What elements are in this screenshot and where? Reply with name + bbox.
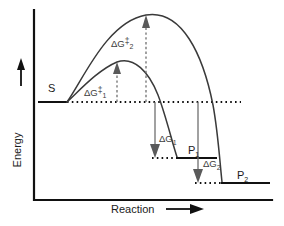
delta-g-1-label-sub: 1: [173, 139, 177, 146]
product-2-label-group: P2: [237, 169, 248, 183]
activation-2-label-text: ΔG: [111, 38, 125, 49]
delta-g-2-label: ΔG2: [203, 158, 221, 171]
right-arrow-icon: [190, 204, 204, 214]
delta-g-2-label-group: ΔG2: [203, 158, 221, 171]
delta-g-1-arrow-head-icon: [150, 144, 160, 158]
activation-1-label-sub: 1: [102, 92, 106, 99]
delta-g-1-label-text: ΔG: [159, 133, 173, 144]
delta-g-2-arrow-head-icon: [193, 169, 203, 183]
activation-2-label-sub: 2: [129, 43, 133, 50]
start-label: S: [48, 82, 55, 94]
product-2-label: P2: [237, 169, 248, 183]
product-1-label-text: P: [188, 144, 195, 156]
energy-diagram-svg: Energy Reaction: [0, 0, 284, 226]
y-axis-label: Energy: [11, 132, 23, 167]
delta-g-2-label-sub: 2: [217, 164, 221, 171]
activation-1-label: ΔG‡1: [84, 85, 106, 99]
activation-2-arrow-head-icon: [142, 15, 150, 28]
product-1-label-sub: 1: [195, 151, 199, 158]
delta-g-1-label-group: ΔG1: [159, 133, 177, 146]
energy-diagram-figure: Energy Reaction: [0, 0, 284, 226]
product-2-label-text: P: [237, 169, 244, 181]
activation-1-label-text: ΔG: [84, 87, 98, 98]
activation-1-label-group: ΔG‡1: [84, 85, 106, 99]
activation-2-label: ΔG‡2: [111, 36, 133, 50]
x-axis-label: Reaction: [111, 203, 154, 215]
delta-g-2-label-text: ΔG: [203, 158, 217, 169]
activation-2-label-group: ΔG‡2: [111, 36, 133, 50]
up-arrow-icon: [17, 58, 25, 70]
x-axis-label-group: Reaction: [111, 203, 204, 215]
delta-g-1-label: ΔG1: [159, 133, 177, 146]
product-2-label-sub: 2: [244, 176, 248, 183]
activation-arrows-group: [113, 15, 150, 102]
y-axis-label-group: Energy: [11, 58, 25, 167]
